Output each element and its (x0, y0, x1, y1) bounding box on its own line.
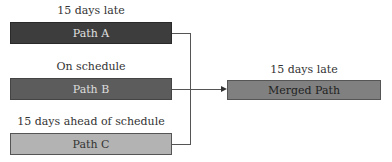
path-a-label: Path A (73, 27, 109, 40)
merged-path-box: Merged Path (227, 80, 381, 100)
path-a-box: Path A (10, 22, 172, 44)
path-b-status: On schedule (10, 60, 172, 73)
connector-c-horizontal (172, 144, 191, 145)
path-a-status: 15 days late (10, 4, 172, 17)
merged-path-label: Merged Path (268, 84, 340, 97)
connector-a-horizontal (172, 33, 191, 34)
path-b-label: Path B (73, 83, 110, 96)
path-c-box: Path C (10, 133, 172, 155)
path-b-box: Path B (10, 78, 172, 100)
connector-b-arrow-line (172, 89, 222, 90)
path-c-status: 15 days ahead of schedule (10, 115, 172, 128)
merged-path-status: 15 days late (227, 63, 381, 76)
path-c-label: Path C (73, 138, 110, 151)
